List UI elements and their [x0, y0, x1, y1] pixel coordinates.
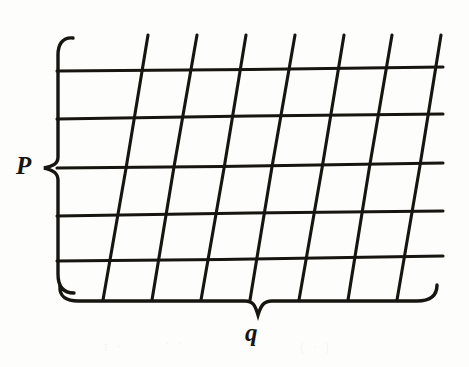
bottom-curly-brace-stroke: [60, 285, 437, 315]
lattice-figure-canvas: [0, 0, 469, 367]
grid-slanted-line: [348, 35, 392, 300]
horizontal-extent-label-q: q: [245, 320, 258, 345]
left-curly-brace: [44, 38, 74, 293]
grid-slanted-line: [299, 35, 344, 300]
grid-horizontal-line: [57, 256, 443, 261]
grid-slanted-line: [397, 35, 441, 300]
grid-horizontal-line: [57, 114, 443, 119]
figure-container: P q t ·· ·( · )·: [0, 0, 469, 367]
bottom-curly-brace: [60, 285, 437, 315]
grid-horizontal-line: [57, 163, 443, 168]
vertical-extent-label-p: P: [16, 153, 31, 178]
grid-horizontal-line: [57, 211, 443, 216]
left-curly-brace-stroke: [44, 38, 74, 293]
